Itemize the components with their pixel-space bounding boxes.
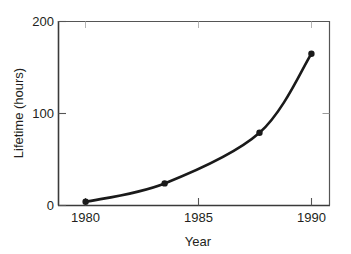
x-axis-title: Year (185, 234, 212, 249)
data-point (82, 199, 88, 205)
data-point (161, 180, 167, 186)
data-point (256, 130, 262, 136)
x-tick-label-1985: 1985 (184, 210, 213, 225)
x-tick-label-1990: 1990 (297, 210, 326, 225)
chart-figure: 200 100 0 1980 1985 1990 Year Lifetime (… (0, 0, 351, 254)
line-chart: 200 100 0 1980 1985 1990 Year Lifetime (… (0, 0, 351, 254)
y-axis-title: Lifetime (hours) (11, 68, 26, 158)
y-tick-label-200: 200 (32, 14, 54, 29)
data-point (308, 51, 314, 57)
x-tick-label-1980: 1980 (71, 210, 100, 225)
y-tick-label-0: 0 (47, 198, 54, 213)
y-tick-label-100: 100 (32, 106, 54, 121)
